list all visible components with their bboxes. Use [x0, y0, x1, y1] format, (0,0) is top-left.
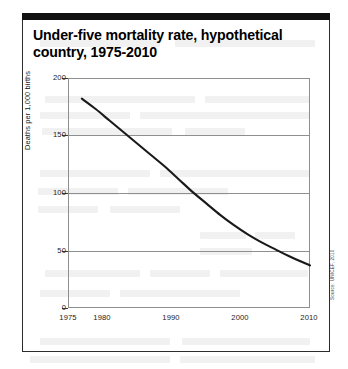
chart-canvas: 200 150 100 50 0 1975 1980 1990 2000 201…	[0, 0, 348, 369]
series-line-under-five-mortality	[82, 99, 310, 266]
series-layer	[0, 0, 348, 369]
